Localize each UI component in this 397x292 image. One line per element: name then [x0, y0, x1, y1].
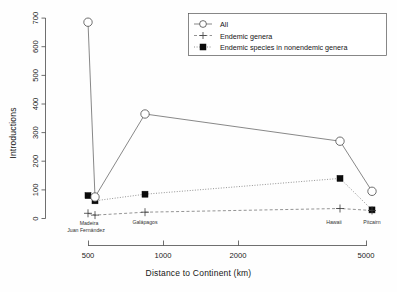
y-axis-title: Introductions — [8, 73, 18, 193]
data-point-endemic-genera-madeira — [84, 209, 92, 217]
y-tick-label-100: 100 — [31, 184, 40, 197]
chart-figure: 0 100 200 300 400 500 600 700 500 1000 — [0, 0, 397, 292]
x-axis-ticks — [89, 241, 367, 246]
data-point-all-juan-fernandez — [91, 193, 99, 201]
data-point-all-galapagos — [141, 110, 149, 118]
site-labels: Madeira Juan Fernández Galápagos Hawaii … — [67, 219, 381, 233]
x-tick-label-5000: 5000 — [358, 251, 375, 260]
y-tick-label-500: 500 — [31, 69, 40, 82]
data-point-endemic-species-galapagos — [142, 191, 148, 197]
data-point-all-pitcairn — [368, 187, 376, 195]
series-endemic-genera — [84, 205, 376, 220]
data-point-endemic-species-hawaii — [337, 175, 343, 181]
series-line-endemic-species — [88, 178, 372, 210]
y-axis: 0 100 200 300 400 500 600 700 — [31, 12, 46, 221]
y-tick-label-200: 200 — [31, 155, 40, 168]
x-axis: 500 1000 2000 5000 — [82, 241, 375, 261]
series-line-endemic-genera — [88, 209, 372, 216]
legend-label-endemic-species: Endemic species in nonendemic genera — [220, 43, 347, 52]
site-label-pitcairn: Pitcairn — [363, 219, 380, 225]
y-axis-ticks — [42, 18, 46, 218]
data-point-endemic-genera-juan-fernandez — [91, 211, 99, 219]
y-tick-label-700: 700 — [31, 12, 40, 25]
site-label-hawaii: Hawaii — [326, 219, 342, 225]
series-endemic-species-in-nonendemic-genera — [85, 175, 375, 213]
x-tick-label-2000: 2000 — [230, 251, 247, 260]
data-point-all-madeira — [84, 18, 92, 26]
legend-marker-open-circle-icon — [200, 21, 207, 28]
data-point-endemic-species-madeira — [85, 193, 91, 199]
x-tick-label-500: 500 — [82, 251, 95, 260]
legend-marker-filled-square-icon — [200, 44, 206, 50]
x-tick-label-1000: 1000 — [155, 251, 172, 260]
y-tick-label-400: 400 — [31, 98, 40, 111]
data-point-endemic-genera-galapagos — [141, 208, 149, 216]
y-tick-label-600: 600 — [31, 40, 40, 53]
y-tick-label-0: 0 — [31, 216, 40, 220]
site-label-juan-fernandez: Juan Fernández — [67, 227, 105, 233]
y-tick-label-300: 300 — [31, 126, 40, 139]
data-point-endemic-genera-hawaii — [336, 205, 344, 213]
x-axis-tick-labels: 500 1000 2000 5000 — [82, 251, 375, 260]
site-label-galapagos: Galápagos — [132, 219, 157, 225]
x-axis-title: Distance to Continent (km) — [0, 268, 397, 278]
data-point-all-hawaii — [336, 137, 344, 145]
y-axis-tick-labels: 0 100 200 300 400 500 600 700 — [31, 12, 40, 221]
chart-legend: All Endemic genera Endemic species in no… — [189, 14, 387, 56]
legend-label-endemic-genera: Endemic genera — [220, 32, 272, 41]
site-label-madeira: Madeira — [80, 220, 99, 226]
legend-label-all: All — [220, 20, 228, 29]
chart-canvas: 0 100 200 300 400 500 600 700 500 1000 — [0, 0, 397, 292]
